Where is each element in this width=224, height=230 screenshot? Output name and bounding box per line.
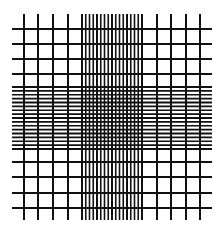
counting-grid-diagram	[0, 0, 224, 230]
grid-lines	[0, 0, 224, 230]
